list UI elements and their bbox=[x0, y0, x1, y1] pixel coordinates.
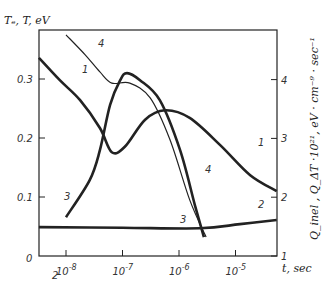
axis-ticks: 10-810-710-610-50.10.20.31234 bbox=[17, 74, 287, 277]
x-tick-label: 10-6 bbox=[169, 263, 190, 277]
x-tick-label: 10-7 bbox=[113, 263, 135, 277]
curve-label-1: 1 bbox=[258, 137, 264, 148]
x-tick-label: 10-5 bbox=[226, 263, 247, 277]
plot-frame bbox=[39, 30, 277, 256]
chart: 10-810-710-610-50.10.20.31234 11223344 T… bbox=[0, 0, 328, 291]
curves bbox=[39, 35, 277, 237]
y-left-tick-label: 0.2 bbox=[17, 133, 33, 144]
y-right-tick-label: 3 bbox=[281, 133, 287, 144]
y-right-tick-label: 4 bbox=[281, 75, 287, 86]
right-axis-label: Q_inel , Q_ΔT ·10²¹, eV · cm⁻⁹ · sec⁻¹ bbox=[308, 37, 321, 240]
curve-label-2: 2 bbox=[258, 199, 264, 210]
curve-label-4: 4 bbox=[98, 38, 104, 49]
curve-label-2: 2 bbox=[52, 270, 58, 281]
x-tick-label: 10-8 bbox=[56, 263, 77, 277]
curve-1 bbox=[39, 58, 277, 191]
y-right-tick-label: 2 bbox=[281, 192, 287, 203]
y-left-tick-label: 0.1 bbox=[17, 192, 33, 203]
curve-label-3: 3 bbox=[64, 191, 70, 202]
curve-2 bbox=[39, 220, 277, 228]
curve-label-3: 3 bbox=[180, 214, 186, 225]
curve-3 bbox=[66, 73, 204, 237]
y-right-tick-label: 1 bbox=[281, 251, 287, 262]
y-left-tick-label: 0.3 bbox=[17, 74, 33, 85]
left-axis-label: Tₑ, T, eV bbox=[4, 14, 51, 27]
curve-label-4: 4 bbox=[205, 164, 211, 175]
curve-label-1: 1 bbox=[82, 64, 88, 75]
bottom-axis-label: t, sec bbox=[282, 262, 312, 275]
origin-label: 0 bbox=[26, 253, 32, 264]
